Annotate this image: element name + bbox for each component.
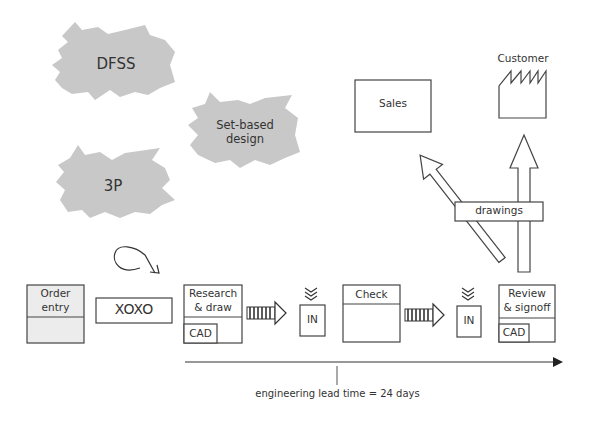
- check-label: Check: [343, 289, 400, 301]
- customer-factory-icon: [499, 71, 546, 118]
- chevrons-icon-1: [305, 288, 317, 300]
- lead-time-label: engineering lead time = 24 days: [240, 388, 435, 399]
- set-based-line2: design: [210, 133, 280, 146]
- loop-arrow-icon: [114, 247, 155, 273]
- order-entry-line1: Order: [27, 288, 84, 300]
- dfss-label: DFSS: [86, 56, 146, 73]
- customer-label: Customer: [490, 53, 556, 65]
- review-line2: & signoff: [499, 302, 555, 314]
- inbox-2-label: IN: [457, 315, 481, 327]
- timeline-arrowhead: [553, 357, 563, 367]
- research-cad-label: CAD: [184, 328, 217, 340]
- review-cad-label: CAD: [499, 327, 529, 339]
- chevrons-icon-2: [462, 288, 474, 300]
- drawings-label: drawings: [455, 205, 543, 217]
- push-arrow-2: [405, 304, 444, 326]
- order-entry-line2: entry: [27, 302, 84, 314]
- xoxo-label: XOXO: [96, 302, 172, 317]
- research-line2: & draw: [184, 302, 242, 314]
- sales-label: Sales: [355, 98, 431, 110]
- inbox-1-label: IN: [300, 314, 325, 326]
- research-line1: Research: [184, 288, 242, 300]
- review-line1: Review: [499, 288, 555, 300]
- push-arrow-1: [247, 302, 286, 324]
- 3p-label: 3P: [88, 178, 138, 195]
- set-based-line1: Set-based: [210, 119, 280, 132]
